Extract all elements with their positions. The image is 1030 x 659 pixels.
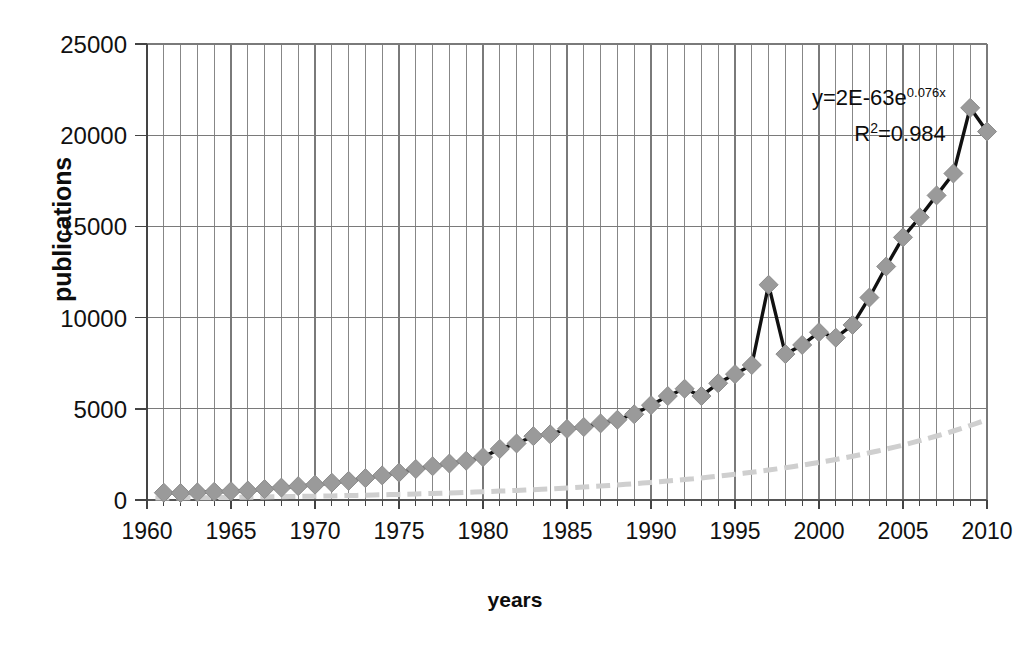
x-tick-label: 1975: [354, 518, 444, 545]
equation-text: y=2E-63e: [812, 85, 907, 110]
trendline-equation: y=2E-63e0.076x: [812, 78, 946, 113]
data-point-marker: [423, 457, 442, 476]
data-point-marker: [524, 427, 543, 446]
data-point-marker: [440, 454, 459, 473]
data-point-marker: [675, 379, 694, 398]
data-point-marker: [490, 439, 509, 458]
data-point-marker: [373, 466, 392, 485]
x-tick-label: 1985: [522, 518, 612, 545]
data-point-marker: [474, 448, 493, 467]
trendline-r-squared: R2=0.984: [812, 113, 946, 149]
data-point-marker: [406, 459, 425, 478]
data-point-marker: [339, 471, 358, 490]
data-point-marker: [541, 425, 560, 444]
data-point-marker: [608, 410, 627, 429]
x-tick-label: 2005: [858, 518, 948, 545]
data-point-marker: [306, 475, 325, 494]
r2-superscript: 2: [870, 120, 878, 136]
data-point-marker: [625, 405, 644, 424]
data-point-marker: [574, 418, 593, 437]
data-point-marker: [860, 288, 879, 307]
data-point-marker: [356, 469, 375, 488]
data-point-marker: [322, 473, 341, 492]
data-point-marker: [507, 434, 526, 453]
equation-exponent: 0.076x: [907, 85, 946, 100]
y-tick-label: 20000: [17, 122, 127, 150]
y-tick-label: 15000: [17, 213, 127, 241]
data-point-marker: [289, 477, 308, 496]
y-tick-label: 25000: [17, 31, 127, 59]
data-point-marker: [776, 345, 795, 364]
x-tick-label: 1965: [186, 518, 276, 545]
data-point-marker: [457, 451, 476, 470]
x-tick-label: 1970: [270, 518, 360, 545]
data-point-marker: [390, 463, 409, 482]
y-tick-label: 0: [17, 487, 127, 515]
trendline-annotation: y=2E-63e0.076x R2=0.984: [812, 78, 946, 150]
x-tick-label: 1995: [690, 518, 780, 545]
data-point-marker: [726, 365, 745, 384]
x-tick-label: 2000: [774, 518, 864, 545]
x-tick-label: 1980: [438, 518, 528, 545]
r2-value: =0.984: [878, 122, 946, 147]
chart-figure: publications years 050001000015000200002…: [0, 0, 1030, 659]
x-axis-label: years: [0, 588, 1030, 612]
data-point-marker: [591, 414, 610, 433]
data-point-marker: [742, 356, 761, 375]
y-tick-label: 5000: [17, 396, 127, 424]
data-point-marker: [658, 387, 677, 406]
data-point-marker: [642, 396, 661, 415]
data-point-marker: [759, 275, 778, 294]
data-point-marker: [558, 419, 577, 438]
x-tick-label: 1960: [102, 518, 192, 545]
x-tick-label: 1990: [606, 518, 696, 545]
data-point-marker: [877, 257, 896, 276]
x-tick-label: 2010: [942, 518, 1030, 545]
r2-label: R: [854, 122, 870, 147]
y-tick-label: 10000: [17, 305, 127, 333]
